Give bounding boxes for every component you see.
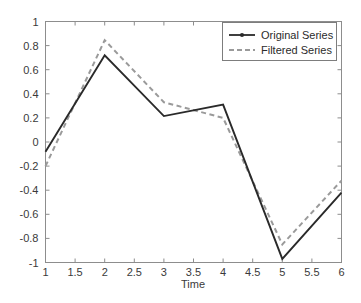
x-tick-label: 6 [338, 266, 344, 278]
legend-label-original: Original Series [261, 29, 334, 41]
x-tick-label: 4.5 [245, 266, 260, 278]
y-tick-label: 0.6 [23, 64, 38, 76]
x-tick-label: 2 [102, 266, 108, 278]
y-tick-label: -0.8 [20, 232, 39, 244]
chart-legend[interactable]: Original Series Filtered Series [223, 23, 337, 61]
y-tick-label: -0.4 [20, 184, 39, 196]
x-tick-label: 1 [42, 266, 48, 278]
y-tick-label: 0.4 [23, 88, 38, 100]
x-tick-label: 4 [220, 266, 226, 278]
y-tick-label: -0.2 [20, 160, 39, 172]
x-tick-label: 2.5 [127, 266, 142, 278]
y-tick-label: 0.2 [23, 112, 38, 124]
x-tick-label: 3 [161, 266, 167, 278]
chart-figure: 11.522.533.544.555.56 10.80.60.40.20-0.2… [0, 0, 361, 303]
x-tick-label: 1.5 [67, 266, 82, 278]
y-tick-label: 0 [32, 136, 38, 148]
x-tick-label: 5 [279, 266, 285, 278]
x-axis-label: Time [181, 278, 205, 290]
line-chart: 11.522.533.544.555.56 10.80.60.40.20-0.2… [0, 0, 361, 303]
y-tick-label: 1 [32, 16, 38, 28]
x-tick-label: 3.5 [186, 266, 201, 278]
y-tick-label: -0.6 [20, 208, 39, 220]
legend-marker-original [240, 33, 244, 37]
legend-label-filtered: Filtered Series [261, 44, 332, 56]
x-tick-label: 5.5 [304, 266, 319, 278]
y-tick-label: -1 [29, 257, 39, 269]
y-tick-label: 0.8 [23, 40, 38, 52]
